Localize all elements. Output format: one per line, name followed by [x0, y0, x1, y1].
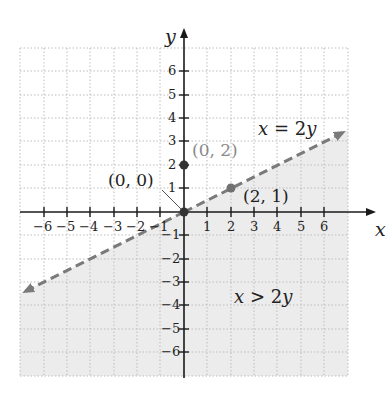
x-tick-label: 5	[297, 220, 305, 233]
y-axis-label: y	[165, 27, 176, 46]
inequality-label: x > 2y	[234, 288, 292, 306]
point-0-0	[180, 208, 189, 217]
x-tick-label: −5	[56, 220, 75, 233]
x-tick-label: 1	[203, 220, 211, 233]
y-tick-label: 5	[168, 88, 176, 101]
y-tick-label: −2	[161, 252, 180, 265]
ineq-op: > 2	[244, 286, 282, 307]
y-tick-label: 6	[168, 64, 176, 77]
point-label-2-1: (2, 1)	[243, 188, 289, 205]
coordinate-plane	[0, 0, 390, 404]
point-label-origin: (0, 0)	[108, 172, 154, 189]
x-tick-label: 4	[273, 220, 281, 233]
y-tick-label: 1	[168, 181, 176, 194]
eq-op: = 2	[268, 118, 306, 139]
point-label-0-2: (0, 2)	[192, 142, 238, 159]
ineq-var-x: x	[234, 286, 244, 307]
point-0-2	[180, 161, 189, 170]
y-tick-label: −6	[161, 345, 180, 358]
y-tick-label: 2	[168, 158, 176, 171]
x-tick-label: 2	[227, 220, 235, 233]
line-equation-label: x = 2y	[258, 120, 316, 138]
ineq-var-y: y	[282, 286, 292, 307]
x-tick-label: 6	[320, 220, 328, 233]
y-tick-label: −3	[161, 275, 180, 288]
eq-var-x: x	[258, 118, 268, 139]
eq-var-y: y	[306, 118, 316, 139]
y-tick-label: −4	[161, 298, 180, 311]
y-tick-label: 4	[168, 111, 176, 124]
point-2-1	[227, 184, 236, 193]
x-tick-label: −3	[103, 220, 122, 233]
y-tick-label: −5	[161, 322, 180, 335]
x-tick-label: −6	[33, 220, 52, 233]
x-tick-label: −4	[79, 220, 98, 233]
x-axis-label: x	[375, 220, 386, 239]
y-tick-label: 3	[168, 134, 176, 147]
x-tick-label: −2	[126, 220, 145, 233]
x-tick-label: 3	[250, 220, 258, 233]
y-tick-label: −1	[161, 228, 180, 241]
